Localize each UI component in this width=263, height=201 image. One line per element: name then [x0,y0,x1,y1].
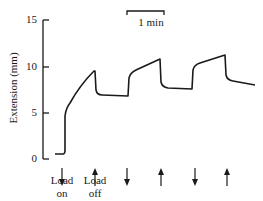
load-off-arrow-2 [158,168,164,186]
load-on-arrow-3 [192,168,198,186]
y-tick-label-10: 10 [17,61,37,72]
load-on-label-line2: on [47,187,77,200]
load-off-label-line1: Load [80,174,110,187]
y-axis-label: Extension (mm) [7,43,19,133]
y-tick-label-0: 0 [17,153,37,164]
chart-canvas [0,0,263,201]
scale-bar [127,11,164,15]
load-off-label-line2: off [80,187,110,200]
scale-bar-label: 1 min [131,16,171,28]
y-tick-label-5: 5 [17,107,37,118]
load-off-label: Load off [80,174,110,200]
load-on-label: Load on [47,174,77,200]
extension-curve [55,55,255,154]
load-on-arrow-2 [124,168,130,186]
load-off-arrow-3 [224,168,230,186]
load-on-label-line1: Load [47,174,77,187]
y-tick-label-15: 15 [17,14,37,25]
